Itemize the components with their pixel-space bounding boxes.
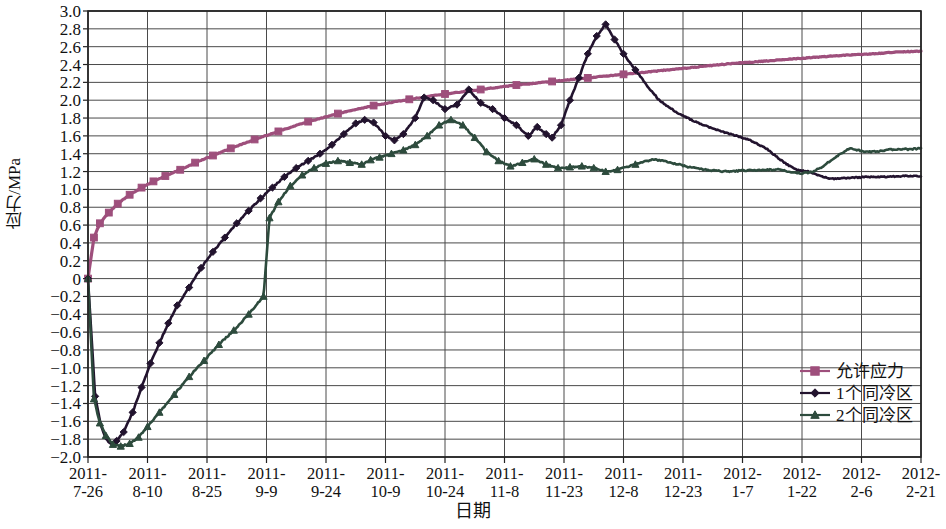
y-tick-label: −0.8: [50, 341, 81, 360]
data-point-marker: [126, 191, 133, 198]
data-point-marker: [549, 78, 556, 85]
x-tick-label: 2012-: [842, 464, 881, 483]
data-point-marker: [138, 184, 145, 191]
x-tick-label: 2011-: [248, 464, 286, 483]
data-point-marker: [370, 102, 377, 109]
series-3: [84, 116, 921, 449]
data-point-marker: [91, 234, 98, 241]
data-point-marker: [97, 220, 104, 227]
legend-marker: [811, 367, 819, 375]
y-axis-title: 应力/MPa: [2, 158, 32, 229]
data-point-marker: [305, 118, 312, 125]
data-series-layer: [84, 21, 921, 449]
x-tick-label: 2011-: [367, 464, 405, 483]
x-tick-label: 2011-: [664, 464, 702, 483]
data-point-marker: [227, 145, 234, 152]
plot-canvas: 3.02.82.62.42.22.01.81.61.41.21.00.80.60…: [0, 0, 946, 500]
legend-item: 允许应力: [800, 362, 904, 381]
y-tick-label: 1.0: [60, 180, 81, 199]
x-tick-label: 2012-: [902, 464, 941, 483]
data-point-marker: [150, 178, 157, 185]
legend-label: 2个同冷区: [836, 406, 913, 425]
data-point-marker: [566, 97, 573, 104]
x-tick-label: 2011-: [605, 464, 643, 483]
x-tick-label: 2011-: [69, 464, 107, 483]
data-point-marker: [114, 200, 121, 207]
y-tick-label: 0.8: [60, 198, 81, 217]
y-tick-label: 2.0: [60, 91, 81, 110]
y-tick-label: −1.2: [50, 377, 81, 396]
data-point-marker: [210, 152, 217, 159]
chart-legend: 允许应力1个同冷区2个同冷区: [800, 362, 913, 425]
data-point-marker: [251, 136, 258, 143]
data-point-marker: [584, 75, 591, 82]
x-tick-label: 2011-: [545, 464, 583, 483]
data-point-marker: [477, 86, 484, 93]
y-tick-label: 3.0: [60, 2, 81, 21]
data-point-marker: [138, 384, 145, 391]
data-point-marker: [105, 209, 112, 216]
x-tick-label: 2011-: [486, 464, 524, 483]
y-tick-label: −1.4: [50, 394, 81, 413]
legend-label: 1个同冷区: [836, 384, 913, 403]
y-tick-label: −1.0: [50, 359, 81, 378]
x-tick-label: 2011-: [307, 464, 345, 483]
data-point-marker: [177, 166, 184, 173]
data-point-marker: [406, 96, 413, 103]
x-tick-label: 2011-: [129, 464, 167, 483]
chart-figure: 应力/MPa 日期 3.02.82.62.42.22.01.81.61.41.2…: [0, 0, 946, 529]
y-tick-label: 0.4: [60, 234, 82, 253]
legend-marker: [811, 389, 819, 397]
data-point-marker: [96, 420, 103, 426]
y-tick-label: 1.4: [60, 145, 82, 164]
y-tick-label: 2.2: [60, 73, 81, 92]
data-point-marker: [162, 173, 169, 180]
y-axis-ticks: 3.02.82.62.42.22.01.81.61.41.21.00.80.60…: [50, 2, 81, 467]
legend-label: 允许应力: [836, 362, 904, 381]
y-tick-label: 2.6: [60, 38, 81, 57]
y-tick-label: 1.2: [60, 163, 81, 182]
y-tick-label: 0.6: [60, 216, 81, 235]
x-tick-label: 2012-: [723, 464, 762, 483]
y-tick-label: 1.8: [60, 109, 81, 128]
x-axis-ticks: 2011-7-262011-8-102011-8-252011-9-92011-…: [69, 464, 940, 500]
y-tick-label: 1.6: [60, 127, 81, 146]
y-tick-label: 2.4: [60, 56, 82, 75]
x-tick-label: 2012-: [783, 464, 822, 483]
y-tick-label: −0.6: [50, 323, 81, 342]
x-tick-label: 2011-: [188, 464, 226, 483]
legend-item: 1个同冷区: [800, 384, 913, 403]
legend-item: 2个同冷区: [800, 406, 913, 425]
y-tick-label: 0: [73, 270, 82, 289]
data-point-marker: [335, 110, 342, 117]
series-2: [84, 21, 921, 445]
data-point-marker: [192, 159, 199, 166]
y-tick-label: −1.8: [50, 430, 81, 449]
series-1: [85, 51, 921, 282]
gridlines: [83, 11, 921, 463]
y-tick-label: −0.2: [50, 287, 81, 306]
data-point-marker: [275, 128, 282, 135]
data-point-marker: [442, 91, 449, 98]
y-tick-label: −1.6: [50, 412, 81, 431]
data-point-marker: [513, 82, 520, 89]
y-tick-label: −0.4: [50, 305, 81, 324]
data-point-marker: [620, 71, 627, 78]
y-tick-label: 2.8: [60, 20, 81, 39]
x-axis-title: 日期: [0, 496, 946, 522]
x-tick-label: 2011-: [426, 464, 464, 483]
y-tick-label: 0.2: [60, 252, 81, 271]
